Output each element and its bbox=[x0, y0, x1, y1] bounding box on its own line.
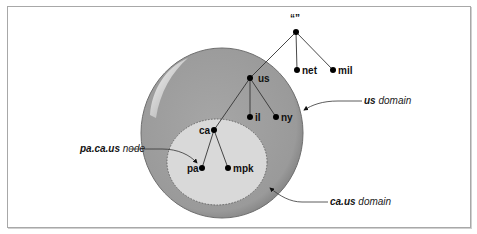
root-node bbox=[293, 29, 299, 35]
pa-ca-us-node-callout: pa.ca.us node bbox=[79, 143, 145, 154]
pa-node bbox=[199, 165, 205, 171]
root-label: “” bbox=[290, 13, 300, 24]
us-node bbox=[247, 75, 253, 81]
us-domain-callout: us domain bbox=[364, 95, 412, 106]
domain-tree-diagram: “” net mil us il ny ca pa mpk us domain … bbox=[0, 0, 477, 234]
mpk-label: mpk bbox=[233, 163, 254, 174]
ca-label: ca bbox=[199, 125, 211, 136]
mil-label: mil bbox=[338, 65, 353, 76]
us-domain-leader bbox=[304, 101, 362, 110]
ca-us-domain-region bbox=[167, 119, 267, 205]
il-label: il bbox=[255, 112, 261, 123]
il-node bbox=[247, 114, 253, 120]
us-label: us bbox=[258, 73, 270, 84]
pa-label: pa bbox=[187, 163, 199, 174]
ca-node bbox=[211, 127, 217, 133]
net-node bbox=[294, 67, 300, 73]
net-label: net bbox=[302, 65, 318, 76]
ca-us-domain-callout: ca.us domain bbox=[330, 196, 392, 207]
ny-label: ny bbox=[281, 112, 293, 123]
mpk-node bbox=[225, 165, 231, 171]
ny-node bbox=[273, 114, 279, 120]
mil-node bbox=[330, 67, 336, 73]
